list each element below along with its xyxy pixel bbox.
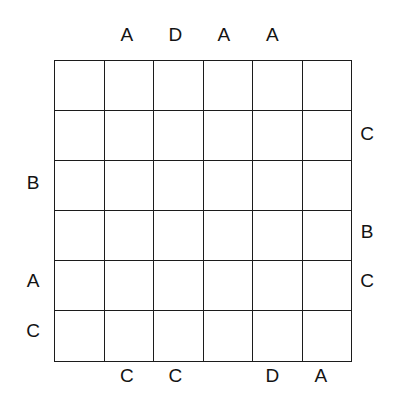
top-clue-col-6 (297, 21, 346, 47)
right-clue-row-2: C (352, 109, 382, 158)
grid-cell-r1c4[interactable] (203, 61, 253, 111)
right-clue-row-3 (352, 158, 382, 207)
grid-cell-r3c6[interactable] (302, 161, 352, 211)
grid-cell-r2c6[interactable] (302, 111, 352, 161)
grid-cell-r2c2[interactable] (104, 111, 154, 161)
grid-cell-r6c1[interactable] (55, 311, 105, 361)
table-row[interactable] (55, 161, 352, 211)
table-row[interactable] (55, 311, 352, 361)
bottom-clue-row: C C D A (54, 362, 345, 388)
top-clue-col-5: A (248, 21, 297, 47)
grid-cell-r4c6[interactable] (302, 211, 352, 261)
bottom-clue-col-4 (200, 362, 249, 388)
bottom-clue-col-6: A (297, 362, 346, 388)
left-clue-row-2 (18, 109, 48, 158)
bottom-clue-col-1 (54, 362, 103, 388)
puzzle-canvas: A D A A B A C (0, 0, 396, 406)
puzzle-grid[interactable] (54, 60, 345, 355)
grid-cell-r3c5[interactable] (253, 161, 303, 211)
grid-cell-r5c6[interactable] (302, 261, 352, 311)
grid-cell-r5c3[interactable] (154, 261, 204, 311)
grid-cell-r5c1[interactable] (55, 261, 105, 311)
grid-cell-r5c2[interactable] (104, 261, 154, 311)
table-row[interactable] (55, 61, 352, 111)
grid-cell-r2c5[interactable] (253, 111, 303, 161)
grid-cell-r3c3[interactable] (154, 161, 204, 211)
table-row[interactable] (55, 111, 352, 161)
grid-cell-r2c4[interactable] (203, 111, 253, 161)
grid-cell-r6c5[interactable] (253, 311, 303, 361)
grid-cell-r4c1[interactable] (55, 211, 105, 261)
top-clue-col-4: A (200, 21, 249, 47)
grid-cell-r3c2[interactable] (104, 161, 154, 211)
right-clue-row-6 (352, 305, 382, 354)
grid-cell-r1c1[interactable] (55, 61, 105, 111)
grid-cell-r2c3[interactable] (154, 111, 204, 161)
bottom-clue-col-3: C (151, 362, 200, 388)
grid-cell-r4c4[interactable] (203, 211, 253, 261)
top-clue-col-1 (54, 21, 103, 47)
top-clue-col-2: A (103, 21, 152, 47)
grid-cell-r6c2[interactable] (104, 311, 154, 361)
grid-cell-r1c3[interactable] (154, 61, 204, 111)
left-clue-row-6: C (18, 305, 48, 354)
bottom-clue-col-5: D (248, 362, 297, 388)
grid-cell-r1c6[interactable] (302, 61, 352, 111)
grid-cell-r5c5[interactable] (253, 261, 303, 311)
grid-cell-r4c5[interactable] (253, 211, 303, 261)
grid-cell-r6c6[interactable] (302, 311, 352, 361)
grid-cell-r6c3[interactable] (154, 311, 204, 361)
grid-cell-r4c2[interactable] (104, 211, 154, 261)
left-clue-column: B A C (18, 60, 48, 355)
grid-cell-r3c4[interactable] (203, 161, 253, 211)
top-clue-row: A D A A (54, 21, 345, 47)
right-clue-row-4: B (352, 207, 382, 256)
table-row[interactable] (55, 261, 352, 311)
grid-table[interactable] (54, 60, 352, 362)
table-row[interactable] (55, 211, 352, 261)
left-clue-row-3: B (18, 158, 48, 207)
left-clue-row-4 (18, 207, 48, 256)
grid-cell-r1c2[interactable] (104, 61, 154, 111)
grid-cell-r3c1[interactable] (55, 161, 105, 211)
left-clue-row-5: A (18, 256, 48, 305)
grid-cell-r6c4[interactable] (203, 311, 253, 361)
bottom-clue-col-2: C (103, 362, 152, 388)
grid-cell-r2c1[interactable] (55, 111, 105, 161)
right-clue-column: C B C (352, 60, 382, 355)
grid-cell-r5c4[interactable] (203, 261, 253, 311)
grid-cell-r4c3[interactable] (154, 211, 204, 261)
left-clue-row-1 (18, 60, 48, 109)
grid-cell-r1c5[interactable] (253, 61, 303, 111)
right-clue-row-1 (352, 60, 382, 109)
top-clue-col-3: D (151, 21, 200, 47)
right-clue-row-5: C (352, 256, 382, 305)
